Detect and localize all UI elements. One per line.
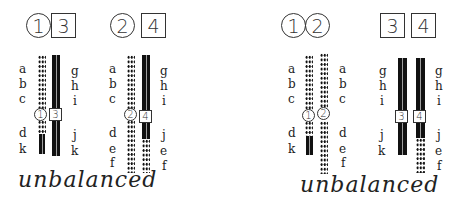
chromosome-1-mid [38,120,46,134]
centromere-4-label: 4 [416,111,422,122]
gene-label: b [339,78,347,90]
chromosome-1-upper [38,55,46,111]
gene-label: d [288,127,296,139]
centromere-2-label: 2 [320,108,326,119]
gene-label: f [162,160,166,172]
gene-label: a [288,63,295,75]
header-circle-1-label: 1 [287,15,299,37]
gene-label: d [109,127,117,139]
gene-label: i [437,95,441,107]
gene-label: b [288,78,296,90]
centromere-square-4: 4 [139,110,152,123]
gene-label: j [437,129,441,141]
chromosome-3 [398,58,407,155]
gene-label: f [437,160,441,172]
chromosome-3 [52,55,60,156]
gene-label: k [19,143,26,155]
gene-label: k [288,143,295,155]
chromosome-1-lower-solid [306,136,313,155]
gene-label: c [109,93,116,105]
gene-label: g [379,65,387,77]
gene-label: f [341,157,345,169]
header-square-4: 4 [411,13,436,38]
chromosome-2-upper [320,53,328,111]
gene-label: j [162,129,166,141]
centromere-square-3: 3 [49,108,62,121]
chromosome-2-lower [320,121,328,174]
centromere-1-label: 1 [37,109,43,120]
gene-label: b [109,78,117,90]
gene-label: a [109,63,116,75]
gene-label: g [435,65,443,77]
chromosome-2-lower [127,120,135,173]
centromere-3-label: 3 [52,109,58,120]
gene-label: d [19,127,27,139]
gene-label: e [160,145,167,157]
header-circle-2-label: 2 [116,15,128,37]
centromere-circle-2: 2 [317,107,330,120]
header-square-3-label: 3 [57,15,69,37]
gene-label: c [339,93,346,105]
centromere-circle-1: 1 [302,109,315,122]
gene-label: h [71,80,79,92]
header-circle-2-label: 2 [311,15,323,37]
gene-label: a [339,63,346,75]
gene-label: b [19,78,27,90]
centromere-circle-2: 2 [124,108,137,121]
centromere-1-label: 1 [305,110,311,121]
gene-label: d [339,127,347,139]
header-circle-1-label: 1 [32,15,44,37]
centromere-2-label: 2 [127,109,133,120]
header-square-4-label: 4 [147,15,159,37]
centromere-4-label: 4 [142,111,148,122]
centromere-3-label: 3 [398,111,404,122]
header-circle-2: 2 [110,13,135,38]
gene-label: c [288,93,295,105]
gene-label: i [162,95,166,107]
caption-unbalanced: unbalanced [18,167,157,192]
caption-unbalanced: unbalanced [300,172,439,197]
chromosome-1-upper [305,55,313,111]
header-square-3: 3 [380,13,405,38]
chromosome-2-upper [127,55,135,111]
gene-label: k [378,145,385,157]
gene-label: a [19,63,26,75]
gene-label: h [379,80,387,92]
gene-label: j [380,129,384,141]
header-square-3-label: 3 [386,15,398,37]
chromosome-1-mid [305,121,313,136]
gene-label: h [160,80,168,92]
gene-label: j [73,129,77,141]
gene-label: g [160,65,168,77]
centromere-square-4: 4 [413,110,426,123]
gene-label: e [109,143,116,155]
chromosome-4-solid [142,55,150,139]
header-square-4-label: 4 [417,15,429,37]
header-circle-2: 2 [305,13,330,38]
gene-label: h [435,80,443,92]
header-circle-1: 1 [26,13,51,38]
gene-label: i [380,95,384,107]
chromosome-4-dotted [416,138,425,173]
gene-label: k [71,145,78,157]
header-square-4: 4 [141,13,166,38]
gene-label: i [73,95,77,107]
centromere-circle-1: 1 [34,108,47,121]
header-circle-1: 1 [281,13,306,38]
gene-label: e [339,143,346,155]
chromosome-4-solid [416,58,425,138]
gene-label: g [71,65,79,77]
header-square-3: 3 [51,13,76,38]
gene-label: e [435,145,442,157]
gene-label: c [19,93,26,105]
chromosome-1-lower-solid [39,134,45,154]
centromere-square-3: 3 [395,110,408,123]
